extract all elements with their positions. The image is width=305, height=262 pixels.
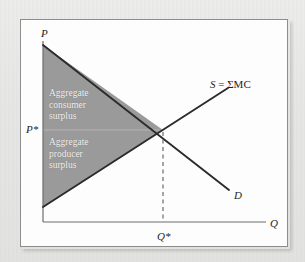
x-axis-label: Q: [270, 218, 278, 229]
supply-curve-label: S = ΣMC: [210, 79, 251, 90]
producer-surplus-caption: Aggregate producer surplus: [49, 137, 89, 172]
producer-surplus-line-3: surplus: [49, 160, 89, 172]
producer-surplus-line-2: producer: [49, 149, 89, 161]
supply-demand-plot: [20, 19, 288, 247]
supply-equation: = ΣMC: [216, 78, 251, 90]
consumer-surplus-line-2: consumer: [49, 100, 89, 112]
consumer-surplus-caption: Aggregate consumer surplus: [49, 88, 89, 123]
y-axis-label: P: [41, 28, 48, 39]
consumer-surplus-line-3: surplus: [49, 111, 89, 123]
demand-curve-label: D: [234, 190, 242, 201]
equilibrium-quantity-text: Q*: [157, 230, 170, 242]
figure-stage: P Q P* Q* S = ΣMC D Aggregate consumer s…: [0, 0, 305, 262]
consumer-surplus-line-1: Aggregate: [49, 88, 89, 100]
equilibrium-price-label: P*: [26, 124, 38, 135]
producer-surplus-line-1: Aggregate: [49, 137, 89, 149]
equilibrium-price-text: P*: [26, 123, 38, 135]
equilibrium-quantity-label: Q*: [157, 231, 170, 242]
